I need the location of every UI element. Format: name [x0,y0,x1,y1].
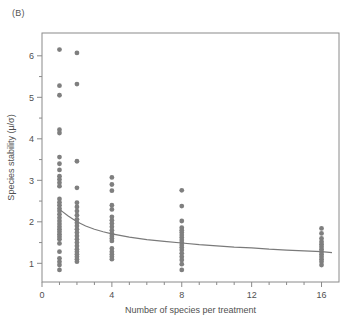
data-point [179,268,184,273]
data-point [57,93,62,98]
data-point [75,82,80,87]
data-point [75,209,80,214]
data-point [179,219,184,224]
data-point [109,175,114,180]
y-tick-label: 6 [29,51,34,61]
data-point [109,207,114,212]
y-tick-label: 5 [29,93,34,103]
data-point [109,182,114,187]
x-tick-label: 8 [179,290,184,300]
data-point [57,263,62,268]
y-axis-title: Species stability (μ/σ) [6,114,16,200]
data-point [319,263,324,268]
plot-frame [42,33,339,282]
data-point [57,155,62,160]
y-tick-label: 1 [29,259,34,269]
data-point [319,226,324,231]
y-tick-label: 4 [29,134,34,144]
data-point [57,249,62,254]
data-point [57,241,62,246]
data-point [75,185,80,190]
data-point [179,262,184,267]
data-point [57,161,62,166]
y-tick-label: 2 [29,217,34,227]
data-point [57,47,62,52]
data-point [179,188,184,193]
data-point [57,131,62,136]
data-point [75,213,80,218]
data-point [109,203,114,208]
x-tick-label: 0 [39,290,44,300]
scatter-plot: 1234560481216Number of species per treat… [0,0,355,319]
data-point [109,188,114,193]
fit-curve [59,209,332,252]
data-point [75,204,80,209]
data-point [75,259,80,264]
data-point [75,51,80,56]
data-point [57,184,62,189]
data-point [109,257,114,262]
x-tick-label: 12 [247,290,257,300]
y-tick-label: 3 [29,176,34,186]
data-point [57,168,62,173]
data-point [75,200,80,205]
x-tick-label: 4 [109,290,114,300]
figure-panel-b: (B) 1234560481216Number of species per t… [0,0,355,319]
data-point [179,258,184,263]
data-point [109,239,114,244]
data-point [57,268,62,273]
x-tick-label: 16 [317,290,327,300]
data-point [319,231,324,236]
x-axis-title: Number of species per treatment [125,305,257,315]
data-point [75,159,80,164]
data-point [57,237,62,242]
data-point [179,204,184,209]
data-point [57,83,62,88]
